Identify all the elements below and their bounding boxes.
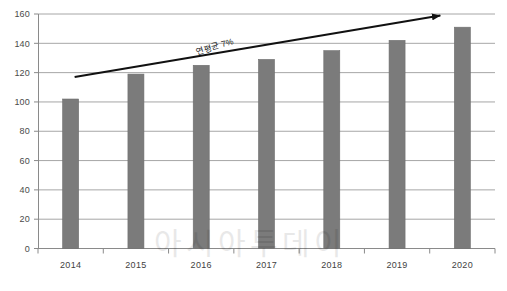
- x-tick-label: 2018: [321, 260, 342, 270]
- x-tick-label: 2020: [452, 260, 473, 270]
- x-tick-label: 2019: [386, 260, 407, 270]
- chart-canvas: 020406080100120140160 201420152016201720…: [0, 0, 507, 291]
- y-tick-label: 80: [20, 126, 30, 136]
- y-tick-label: 20: [20, 214, 30, 224]
- bar: [128, 74, 144, 248]
- y-tick-label: 140: [14, 39, 30, 49]
- bar-chart-figure: 020406080100120140160 201420152016201720…: [0, 0, 507, 291]
- bar: [389, 40, 405, 248]
- watermark: 아시아투데이: [154, 227, 346, 260]
- x-tick-label: 2014: [60, 260, 81, 270]
- x-tick-label: 2015: [125, 260, 146, 270]
- y-tick-label: 40: [20, 185, 30, 195]
- bar: [259, 59, 275, 248]
- bar: [324, 51, 340, 249]
- y-tick-label: 160: [14, 9, 30, 19]
- y-tick-label: 60: [20, 156, 30, 166]
- y-tick-label: 120: [14, 68, 30, 78]
- x-tick-label: 2016: [191, 260, 212, 270]
- y-tick-label: 0: [25, 244, 30, 254]
- bar: [454, 27, 470, 248]
- bar: [193, 65, 209, 248]
- y-tick-label: 100: [14, 97, 30, 107]
- x-tick-label: 2017: [256, 260, 277, 270]
- bar: [63, 99, 79, 248]
